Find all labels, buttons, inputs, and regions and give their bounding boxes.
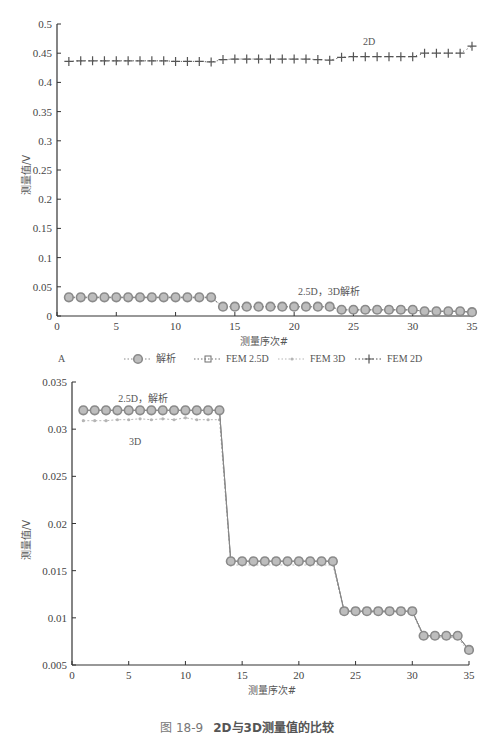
series-fem-3d [82, 416, 471, 653]
svg-text:0: 0 [69, 669, 75, 681]
svg-text:0.03: 0.03 [48, 423, 68, 435]
chart-b-annotation-3d: 3D [129, 436, 141, 447]
chart-b-ylabel: 测量值/V [20, 520, 32, 560]
svg-text:5: 5 [126, 669, 132, 681]
caption-number: 图 18-9 [160, 721, 203, 735]
chart-b-x-axis: 05101520253035 [69, 661, 475, 681]
figure-caption: 图 18-92D与3D测量值的比较 [0, 718, 494, 735]
legend-item-fem-2d: FEM 2D [355, 353, 422, 364]
chart-a-annotation-low: 2.5D，3D解析 [298, 285, 360, 297]
chart-a-x-axis: 05101520253035 [54, 312, 478, 332]
svg-text:35: 35 [467, 320, 479, 332]
svg-text:5: 5 [114, 320, 120, 332]
chart-b: 0.0050.010.0150.020.0250.030.035 0510152… [0, 370, 494, 700]
svg-text:20: 20 [289, 320, 301, 332]
svg-text:0.1: 0.1 [38, 252, 52, 264]
svg-text:0.2: 0.2 [38, 193, 52, 205]
svg-text:35: 35 [464, 669, 476, 681]
chart-a-panel-label: A [58, 353, 66, 364]
series-解析 [65, 293, 477, 316]
chart-a-y-axis: 00.050.10.150.20.250.30.350.40.450.5 [33, 18, 61, 322]
svg-text:30: 30 [407, 669, 419, 681]
chart-b-annotation-top: 2.5D，解析 [118, 392, 168, 404]
svg-text:0.02: 0.02 [48, 518, 67, 530]
series-fem-2d [64, 42, 476, 67]
svg-text:解析: 解析 [156, 352, 176, 364]
svg-text:10: 10 [170, 320, 182, 332]
svg-text:0.035: 0.035 [42, 376, 67, 388]
svg-text:0.05: 0.05 [33, 281, 53, 293]
svg-text:0.015: 0.015 [42, 565, 67, 577]
chart-a: 00.050.10.150.20.250.30.350.40.450.5 051… [0, 0, 494, 370]
svg-text:25: 25 [348, 320, 360, 332]
legend-item-解析: 解析 [124, 352, 176, 364]
svg-text:0.15: 0.15 [33, 222, 53, 234]
svg-text:0.01: 0.01 [48, 612, 67, 624]
svg-text:0.35: 0.35 [33, 106, 53, 118]
legend-item-fem-3d: FEM 3D [278, 353, 345, 364]
svg-text:0.25: 0.25 [33, 164, 53, 176]
chart-a-series [64, 42, 476, 317]
svg-text:FEM 2D: FEM 2D [387, 353, 422, 364]
chart-b-xlabel: 测量序次# [248, 684, 296, 696]
svg-text:15: 15 [237, 669, 249, 681]
chart-a-ylabel: 测量值/V [20, 155, 32, 195]
svg-text:0.4: 0.4 [38, 76, 52, 88]
chart-a-annotation-2d: 2D [363, 36, 375, 47]
svg-text:0: 0 [54, 320, 60, 332]
svg-text:FEM 2.5D: FEM 2.5D [226, 353, 269, 364]
svg-text:0.5: 0.5 [38, 18, 52, 30]
svg-text:20: 20 [293, 669, 305, 681]
chart-a-xlabel: 测量序次# [240, 335, 288, 347]
svg-text:25: 25 [350, 669, 362, 681]
chart-a-legend: 解析FEM 2.5DFEM 3DFEM 2D [124, 352, 422, 364]
chart-b-y-axis: 0.0050.010.0150.020.0250.030.035 [42, 376, 76, 671]
svg-text:0.025: 0.025 [42, 470, 67, 482]
svg-text:FEM 3D: FEM 3D [310, 353, 345, 364]
caption-text: 2D与3D测量值的比较 [213, 721, 334, 735]
legend-item-fem-2.5d: FEM 2.5D [194, 353, 269, 364]
svg-text:0.005: 0.005 [42, 659, 67, 671]
svg-text:0.3: 0.3 [38, 135, 52, 147]
svg-text:30: 30 [407, 320, 419, 332]
svg-text:10: 10 [180, 669, 192, 681]
svg-text:0.45: 0.45 [33, 47, 53, 59]
svg-text:0: 0 [47, 310, 53, 322]
svg-text:15: 15 [229, 320, 241, 332]
